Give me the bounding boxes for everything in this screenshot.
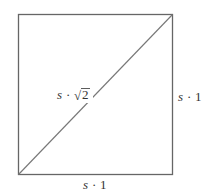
right-side-label: s · 1 [178, 89, 202, 104]
diagonal-label-radicand: 2 [82, 87, 89, 102]
bottom-label-dot: · [92, 177, 96, 192]
square-diagram: s · √ 2 s · 1 s · 1 [0, 0, 207, 193]
sqrt-symbol: √ [74, 88, 82, 103]
diagonal-label: s · √ 2 [55, 86, 93, 103]
bottom-side-label: s · 1 [83, 177, 107, 192]
diagonal-label-dot: · [66, 87, 70, 102]
right-label-value: 1 [195, 89, 202, 104]
diagonal-label-var: s [57, 87, 62, 102]
right-label-dot: · [187, 89, 191, 104]
bottom-label-value: 1 [100, 177, 107, 192]
bottom-label-var: s [83, 177, 88, 192]
diagonal-line [19, 15, 173, 175]
right-label-var: s [178, 89, 183, 104]
